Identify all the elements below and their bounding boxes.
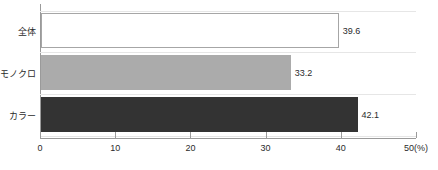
category-label-color: カラー (0, 108, 36, 121)
bar-overall (41, 13, 339, 48)
row-rule (40, 136, 416, 137)
bar-chart: 0 10 20 30 40 50(%) 全体 モノクロ カラー 39.6 33.… (0, 0, 438, 170)
bar-value-color: 42.1 (362, 110, 380, 120)
category-label-monochrome: モノクロ (0, 66, 36, 79)
x-axis-tick (40, 132, 41, 138)
x-tick-label: 50(%) (404, 143, 428, 153)
x-axis-tick (416, 132, 417, 138)
row-rule (40, 52, 416, 53)
category-label-overall: 全体 (0, 24, 36, 37)
x-axis-line (40, 138, 416, 139)
bar-monochrome (41, 55, 291, 90)
x-axis-tick (266, 132, 267, 138)
row-rule (40, 11, 416, 12)
x-axis-tick (190, 132, 191, 138)
bar-value-monochrome: 33.2 (295, 68, 313, 78)
x-axis-tick (341, 132, 342, 138)
bar-value-overall: 39.6 (343, 26, 361, 36)
bar-color (41, 97, 358, 132)
x-tick-label: 40 (336, 143, 346, 153)
x-tick-label: 0 (37, 143, 42, 153)
x-axis-tick (115, 132, 116, 138)
row-rule (40, 94, 416, 95)
x-tick-label: 30 (261, 143, 271, 153)
x-tick-label: 10 (110, 143, 120, 153)
x-tick-label: 20 (185, 143, 195, 153)
